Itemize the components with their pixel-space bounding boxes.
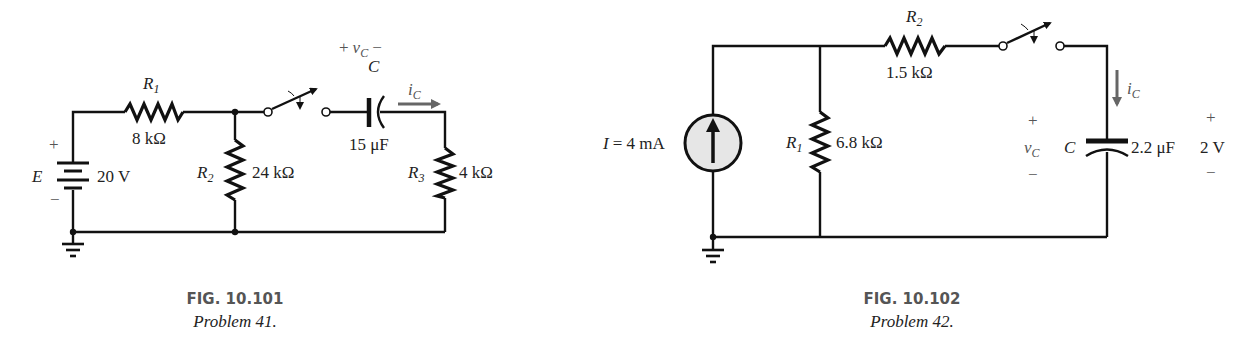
capacitor-name: C	[1064, 138, 1076, 157]
r2-label: R2	[905, 7, 922, 29]
resistor-r1-icon	[812, 112, 828, 172]
battery-name: E	[31, 167, 43, 186]
switch-icon[interactable]	[999, 23, 1064, 50]
current-source-label: I= 4 mA	[602, 134, 665, 153]
figure-number: FIG. 10.101	[187, 290, 284, 308]
r1-label: R1	[142, 74, 159, 96]
figure-10-102: I= 4 mA R1 6.8 kΩ R2 1.5 kΩ iC	[602, 7, 1225, 331]
initial-voltage-plus: +	[1206, 108, 1216, 127]
vc-label: +vC−	[339, 38, 382, 60]
battery-plus: +	[49, 135, 59, 154]
figure-number: FIG. 10.102	[864, 290, 961, 308]
initial-voltage-value: 2 V	[1200, 138, 1225, 157]
r3-value: 4 kΩ	[459, 163, 493, 182]
resistor-r1-icon	[125, 104, 183, 120]
ground-icon	[62, 232, 84, 256]
r2-value: 24 kΩ	[252, 163, 294, 182]
vc-label: vC	[1024, 138, 1041, 160]
resistor-r2-icon	[885, 38, 945, 54]
ic-label: iC	[408, 80, 422, 102]
r2-label: R2	[196, 163, 213, 185]
ic-label: iC	[1127, 79, 1141, 101]
capacitor-value: 2.2 μF	[1131, 138, 1175, 157]
r1-label: R1	[785, 133, 802, 155]
r1-value: 6.8 kΩ	[836, 133, 883, 152]
capacitor-value: 15 μF	[349, 135, 389, 154]
node-dot	[232, 229, 238, 235]
resistor-r3-icon	[437, 148, 453, 198]
figure-10-101: + − E 20 V R1 8 kΩ R2 24 kΩ	[31, 38, 493, 331]
circuit-diagrams: + − E 20 V R1 8 kΩ R2 24 kΩ	[0, 0, 1254, 353]
r2-value: 1.5 kΩ	[886, 63, 933, 82]
r3-label: R3	[407, 163, 424, 185]
vc-plus: +	[1028, 111, 1038, 130]
current-source-icon	[685, 115, 741, 171]
problem-label: Problem 41.	[192, 312, 276, 331]
node-dot	[232, 109, 238, 115]
r1-value: 8 kΩ	[132, 129, 166, 148]
problem-label: Problem 42.	[869, 312, 953, 331]
ground-icon	[702, 237, 724, 262]
resistor-r2-icon	[227, 140, 243, 200]
initial-voltage-minus: −	[1206, 163, 1216, 182]
battery-icon	[57, 163, 89, 188]
switch-icon[interactable]	[264, 89, 330, 116]
capacitor-name: C	[368, 57, 380, 76]
battery-minus: −	[50, 190, 60, 209]
vc-minus: −	[1028, 165, 1038, 184]
battery-value: 20 V	[97, 167, 131, 186]
